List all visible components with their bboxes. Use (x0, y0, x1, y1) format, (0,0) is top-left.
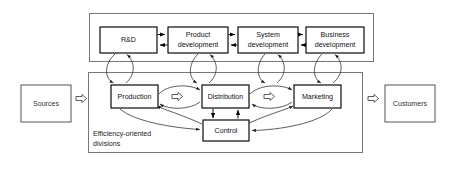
systemdev-marketing-link-down (258, 54, 265, 83)
control-node[interactable]: Control (203, 120, 249, 141)
control-to-production (157, 106, 202, 124)
production-to-distribution-arrow-icon (172, 93, 183, 101)
business-development-label-line1: Business (321, 31, 350, 39)
efficiency-caption-line1: Efficiency-oriented (93, 130, 151, 138)
control-label: Control (215, 127, 238, 135)
production-label: Production (118, 93, 152, 101)
customers-node[interactable]: Customers (385, 85, 435, 122)
productdev-distribution-link-down (190, 54, 198, 83)
sources-to-efficiency-arrow-icon (76, 95, 87, 103)
sources-label: Sources (33, 100, 59, 108)
system-development-label-line2: development (248, 41, 289, 49)
rd-production-link-down (107, 54, 115, 83)
production-node[interactable]: Production (111, 85, 158, 108)
distribution-node[interactable]: Distribution (202, 85, 249, 108)
businessdev-marketing-link-up (333, 55, 341, 84)
distribution-marketing-ellipse-bottom (252, 102, 292, 108)
marketing-label: Marketing (302, 93, 333, 101)
customers-label: Customers (393, 100, 428, 108)
product-development-node[interactable]: Product development (168, 27, 228, 53)
process-diagram: Sources Customers R&D Pro (0, 0, 459, 170)
system-development-label-line1: System (256, 31, 280, 39)
rd-node[interactable]: R&D (100, 27, 157, 53)
efficiency-caption-line2: divisions (93, 140, 121, 148)
distribution-marketing-ellipse-top (250, 86, 292, 94)
production-to-control (120, 109, 200, 130)
system-development-node[interactable]: System development (238, 27, 298, 53)
production-distribution-ellipse-bottom (160, 102, 200, 108)
rd-label: R&D (121, 36, 136, 44)
distribution-to-marketing-arrow-icon (264, 93, 275, 101)
production-distribution-ellipse-top (159, 86, 200, 94)
marketing-to-control (252, 109, 332, 131)
business-development-label-line2: development (315, 41, 356, 49)
product-development-label-line2: development (178, 41, 219, 49)
efficiency-to-customers-arrow-icon (368, 95, 379, 103)
diagram-canvas: Sources Customers R&D Pro (0, 0, 459, 170)
rd-production-link-up (126, 55, 133, 84)
business-development-node[interactable]: Business development (306, 27, 364, 53)
productdev-distribution-link-up (209, 55, 216, 84)
systemdev-marketing-link-up (277, 55, 284, 84)
businessdev-marketing-link-down (314, 54, 322, 83)
sources-node[interactable]: Sources (21, 85, 71, 122)
product-development-label-line1: Product (186, 31, 210, 39)
distribution-label: Distribution (208, 93, 244, 101)
marketing-node[interactable]: Marketing (294, 85, 341, 108)
